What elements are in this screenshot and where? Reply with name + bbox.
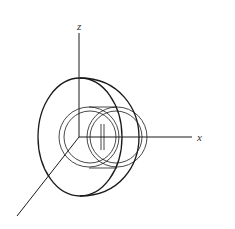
- y-axis: [17, 137, 79, 216]
- z-axis-label: z: [76, 20, 82, 32]
- diagram-canvas: z x: [0, 0, 235, 229]
- x-axis-label: x: [196, 131, 202, 143]
